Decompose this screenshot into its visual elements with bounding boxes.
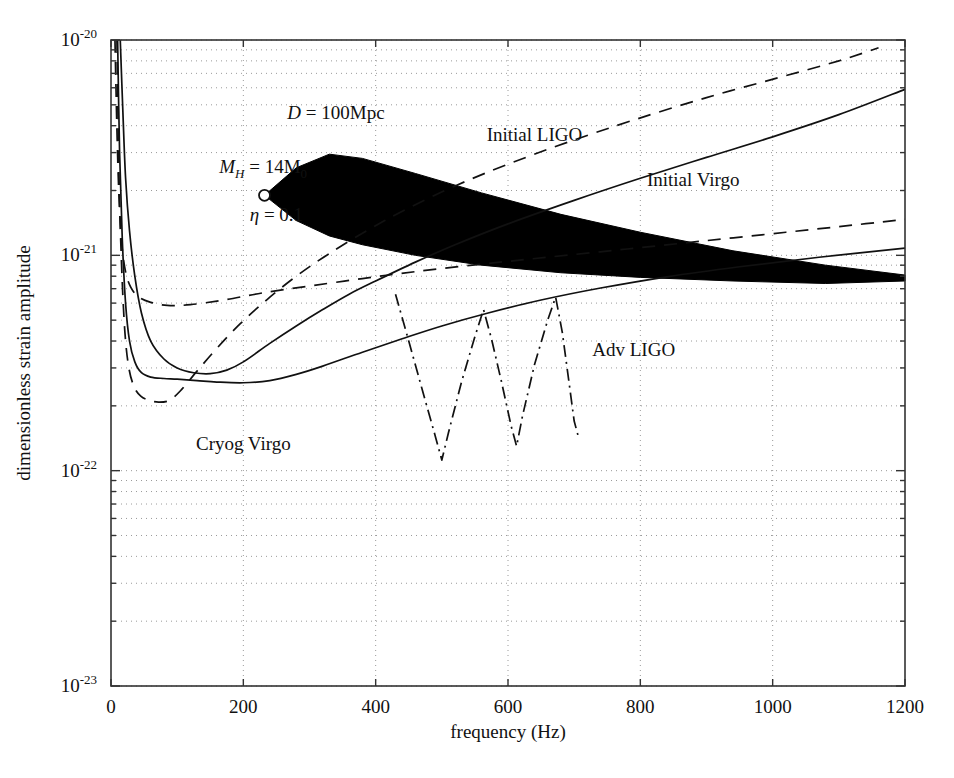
x-tick-label: 1000 bbox=[754, 696, 792, 717]
curve-label-initial-virgo: Initial Virgo bbox=[647, 169, 740, 190]
x-tick-label: 1200 bbox=[886, 696, 924, 717]
x-axis-title: frequency (Hz) bbox=[450, 721, 566, 743]
y-axis-title: dimensionless strain amplitude bbox=[13, 245, 34, 480]
chart-background bbox=[0, 0, 954, 778]
curve-label-cryog-virgo: Cryog Virgo bbox=[196, 433, 291, 454]
chart-canvas: 02004006008001000120010-2010-2110-2210-2… bbox=[0, 0, 954, 778]
source-start-marker bbox=[259, 190, 270, 201]
gravitational-wave-sensitivity-chart: 02004006008001000120010-2010-2110-2210-2… bbox=[0, 0, 954, 778]
x-tick-label: 0 bbox=[106, 696, 116, 717]
marker-layer bbox=[259, 190, 270, 201]
x-tick-label: 400 bbox=[361, 696, 390, 717]
curve-label-initial-ligo: Initial LIGO bbox=[487, 124, 583, 145]
x-tick-label: 800 bbox=[626, 696, 655, 717]
curve-label-adv-ligo: Adv LIGO bbox=[592, 339, 675, 360]
annotation-eta: η = 0.1 bbox=[250, 204, 303, 225]
x-tick-label: 600 bbox=[494, 696, 523, 717]
x-tick-label: 200 bbox=[229, 696, 258, 717]
annotation-distance: D = 100Mpc bbox=[286, 102, 384, 123]
